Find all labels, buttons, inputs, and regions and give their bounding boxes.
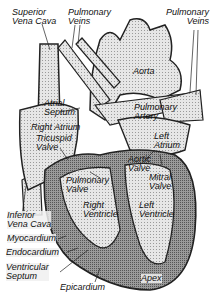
heart-illustration xyxy=(0,0,215,306)
heart-diagram: Superior Vena Cava Pulmonary Veins Pulmo… xyxy=(0,0,215,306)
label-pulmonary-veins-left: Pulmonary Veins xyxy=(68,8,111,26)
label-right-ventricle: Right Ventricle xyxy=(83,201,118,219)
label-pulmonary-valve: Pulmonary Valve xyxy=(66,176,109,194)
label-left-atrium: Left Atrium xyxy=(154,132,180,150)
label-mitral-valve: Mitral Valve xyxy=(149,173,171,191)
label-apex: Apex xyxy=(141,274,162,283)
label-myocardium: Myocardium xyxy=(7,234,56,243)
label-left-ventricle: Left Ventricle xyxy=(139,201,174,219)
label-tricuspid-valve: Tricuspid Valve xyxy=(36,134,72,152)
label-epicardium: Epicardium xyxy=(60,283,105,292)
label-atrial-septum: Atrial Septum xyxy=(44,99,75,117)
label-pulmonary-veins-right: Pulmonary Veins xyxy=(166,8,209,26)
label-right-atrium: Right Atrium xyxy=(31,123,80,132)
label-inferior-vena-cava: Inferior Vena Cava xyxy=(7,211,51,229)
label-pulmonary-artery: Pulmonary Artery xyxy=(134,103,177,121)
label-aortic-valve: Aortic Valve xyxy=(128,155,151,173)
label-ventricular-septum: Ventricular Septum xyxy=(6,263,49,281)
label-aorta: Aorta xyxy=(133,67,155,76)
label-superior-vena-cava: Superior Vena Cava xyxy=(12,8,56,26)
label-endocardium: Endocardium xyxy=(6,248,59,257)
